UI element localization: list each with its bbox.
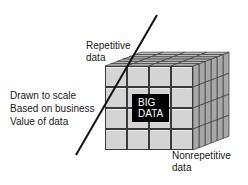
big-data-diagram: BIG DATA Repetitive data Drawn to scale …: [0, 0, 248, 185]
big-data-line1: BIG: [138, 97, 169, 108]
big-data-box: BIG DATA: [132, 94, 169, 122]
repetitive-data-label: Repetitive data: [86, 40, 130, 64]
nonrepetitive-data-label: Nonrepetitive data: [172, 150, 231, 174]
big-data-line2: DATA: [138, 108, 169, 119]
scale-note-label: Drawn to scale Based on business Value o…: [10, 89, 95, 128]
